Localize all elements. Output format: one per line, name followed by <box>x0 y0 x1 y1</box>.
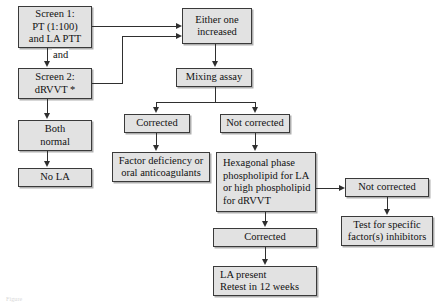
arrowhead-screen1-to-either <box>176 23 182 29</box>
edge-screen1-to-either <box>92 26 177 27</box>
arrowhead-corrected-1-to-factor <box>153 145 159 151</box>
edge-screen2-right <box>92 83 123 84</box>
node-corrected-1-label: Corrected <box>136 117 177 130</box>
arrowhead-not-corrected-2-to-test <box>384 209 390 215</box>
node-factor-deficiency-label: Factor deficiency or oral anticoagulants <box>119 155 204 180</box>
arrowhead-both-normal-to-no-la <box>44 161 50 167</box>
node-mixing-assay-label: Mixing assay <box>186 71 242 84</box>
edge-mixing-down <box>215 87 216 102</box>
edge-corrected-2-to-la-present <box>265 247 266 259</box>
node-test-inhibitors-label: Test for specific factor(s) inhibitors <box>348 219 426 244</box>
arrowhead-hexagonal-to-not-corrected-2 <box>339 185 345 191</box>
node-no-la-label: No LA <box>40 171 69 184</box>
edge-screen1-to-screen2 <box>47 48 48 62</box>
arrowhead-bus-to-not-corrected-1 <box>252 107 258 113</box>
edge-not-corrected-1-to-hexagonal <box>255 133 256 145</box>
arrowhead-not-corrected-1-to-hexagonal <box>252 145 258 151</box>
flowchart-canvas: Screen 1: PT (1:100) and LA PTT Screen 2… <box>0 0 442 305</box>
edge-screen2-to-either <box>122 36 177 37</box>
node-la-present-label: LA present Retest in 12 weeks <box>220 269 299 294</box>
edge-screen2-to-both-normal <box>47 99 48 114</box>
arrowhead-screen2-to-either <box>176 33 182 39</box>
node-la-present: LA present Retest in 12 weeks <box>213 266 317 296</box>
arrowhead-corrected-2-to-la-present <box>262 259 268 265</box>
node-no-la: No LA <box>18 168 92 187</box>
node-screen1: Screen 1: PT (1:100) and LA PTT <box>18 6 92 48</box>
node-factor-deficiency: Factor deficiency or oral anticoagulants <box>112 152 210 182</box>
edge-corrected-1-to-factor <box>156 133 157 145</box>
node-screen2: Screen 2: dRVVT * <box>18 68 92 99</box>
node-corrected-1: Corrected <box>124 114 190 133</box>
node-screen1-label: Screen 1: PT (1:100) and LA PTT <box>29 8 82 46</box>
node-hexagonal-phase: Hexagonal phase phospholipid for LA or h… <box>216 152 316 212</box>
edge-mixing-bus <box>156 102 256 103</box>
node-test-inhibitors: Test for specific factor(s) inhibitors <box>341 216 433 246</box>
node-either-one-increased-label: Either one increased <box>195 14 238 39</box>
node-not-corrected-1: Not corrected <box>220 114 290 133</box>
node-not-corrected-2: Not corrected <box>345 178 429 197</box>
edge-either-to-mixing <box>215 44 216 61</box>
figure-caption: Figure <box>6 296 22 303</box>
arrowhead-hexagonal-to-corrected-2 <box>262 221 268 227</box>
edge-label-and: and <box>52 49 69 60</box>
node-not-corrected-1-label: Not corrected <box>226 117 283 130</box>
node-corrected-2: Corrected <box>213 228 317 247</box>
node-corrected-2-label: Corrected <box>244 231 285 244</box>
edge-hexagonal-to-not-corrected-2 <box>316 188 340 189</box>
edge-screen2-up <box>122 36 123 84</box>
edge-not-corrected-2-to-test <box>387 197 388 209</box>
node-not-corrected-2-label: Not corrected <box>358 181 415 194</box>
arrowhead-screen2-to-both-normal <box>44 113 50 119</box>
arrowhead-screen1-to-screen2 <box>44 61 50 67</box>
node-both-normal-label: Both normal <box>40 123 70 148</box>
node-both-normal: Both normal <box>18 120 92 151</box>
node-screen2-label: Screen 2: dRVVT * <box>35 71 76 96</box>
arrowhead-bus-to-corrected-1 <box>153 107 159 113</box>
arrowhead-either-to-mixing <box>212 61 218 67</box>
node-either-one-increased: Either one increased <box>182 8 252 44</box>
node-hexagonal-phase-label: Hexagonal phase phospholipid for LA or h… <box>223 157 311 207</box>
node-mixing-assay: Mixing assay <box>176 68 252 87</box>
